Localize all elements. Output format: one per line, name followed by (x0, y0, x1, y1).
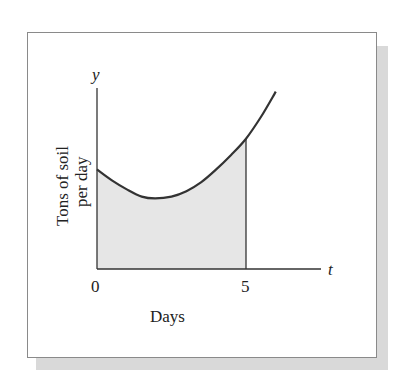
chart-svg: y t 0 5 Days Tons of soil per day (0, 0, 403, 386)
x-tick-0: 0 (91, 277, 100, 296)
rate-curve (97, 92, 276, 199)
y-axis-label-line2: per day (72, 156, 91, 207)
y-axis-label-line1: Tons of soil (53, 146, 72, 226)
y-axis-symbol: y (90, 65, 100, 84)
t-axis-symbol: t (328, 260, 334, 279)
shaded-area (97, 139, 246, 269)
x-tick-5: 5 (241, 277, 250, 296)
x-axis-label: Days (150, 307, 185, 326)
